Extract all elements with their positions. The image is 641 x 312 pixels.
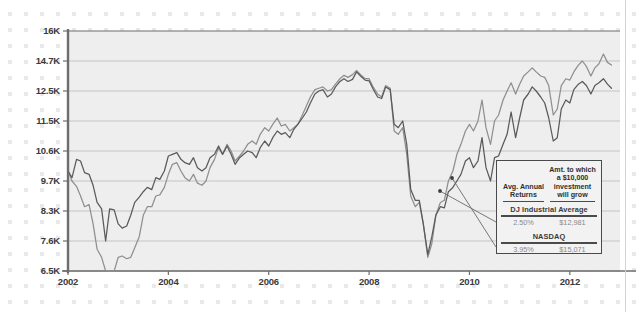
y-tick-label: 12.5K <box>14 85 60 96</box>
legend-header-right-line-3: investment <box>547 183 598 192</box>
legend-header-left-line-1: Avg. Annual <box>500 183 547 192</box>
legend-header-row: Avg. Annual Returns Amt. to which a $10,… <box>497 161 601 201</box>
callout-leader-dj-anchor-dot <box>438 189 442 193</box>
stock-index-comparison-chart <box>0 0 641 312</box>
y-tick-label: 16K <box>14 25 60 36</box>
legend-header-amount-grow: Amt. to which a $10,000 investment will … <box>547 164 598 201</box>
chart-plot-area <box>0 0 641 312</box>
legend-dj-amount: $12,981 <box>547 218 598 227</box>
x-tick-label: 2010 <box>449 276 489 287</box>
legend-dj-return: 2.50% <box>500 218 547 227</box>
legend-series-title-nasdaq: NASDAQ <box>497 229 601 242</box>
y-tick-label: 14.7K <box>14 55 60 66</box>
legend-callout-table[interactable]: Avg. Annual Returns Amt. to which a $10,… <box>496 160 602 254</box>
y-tick-label: 10.6K <box>14 145 60 156</box>
callout-leader-nasdaq-anchor-dot <box>450 176 454 180</box>
legend-header-avg-annual-returns: Avg. Annual Returns <box>500 164 547 201</box>
legend-series-title-dj: DJ Industrial Average <box>497 202 601 215</box>
x-tick-label: 2004 <box>148 276 188 287</box>
legend-header-divider-left <box>503 201 544 202</box>
x-tick-label: 2012 <box>550 276 590 287</box>
y-tick-label: 11.5K <box>14 115 60 126</box>
y-tick-label: 6.5K <box>14 265 60 276</box>
legend-header-divider-right <box>550 201 595 202</box>
legend-nasdaq-amount: $15,071 <box>547 245 598 254</box>
legend-series-row-dj: 2.50% $12,981 <box>497 217 601 230</box>
legend-header-right-line-1: Amt. to which <box>547 166 598 175</box>
x-tick-label: 2008 <box>349 276 389 287</box>
legend-header-right-line-2: a $10,000 <box>547 174 598 183</box>
legend-header-left-line-2: Returns <box>500 191 547 200</box>
y-tick-label: 7.6K <box>14 235 60 246</box>
legend-nasdaq-return: 3.95% <box>500 245 547 254</box>
x-tick-label: 2006 <box>249 276 289 287</box>
page-right-border <box>625 0 626 312</box>
y-tick-label: 8.3K <box>14 205 60 216</box>
legend-header-right-line-4: will grow <box>547 191 598 200</box>
legend-series-row-nasdaq: 3.95% $15,071 <box>497 244 601 257</box>
y-tick-label: 9.7K <box>14 175 60 186</box>
x-tick-label: 2002 <box>48 276 88 287</box>
